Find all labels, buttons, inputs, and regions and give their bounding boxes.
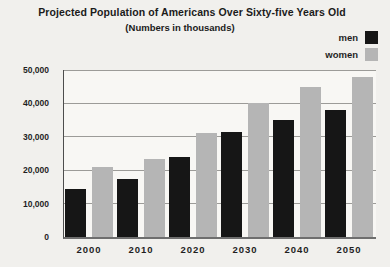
x-tick-label: 2020	[168, 244, 218, 255]
x-tick-label: 2050	[324, 244, 374, 255]
legend-item-women: women	[325, 48, 378, 61]
y-tick-label: 0	[1, 232, 49, 242]
legend-item-men: men	[325, 31, 378, 44]
legend-label-women: women	[325, 49, 358, 60]
bar-men-2040	[273, 120, 294, 237]
y-tick-label: 20,000	[1, 165, 49, 175]
bar-men-2000	[65, 189, 86, 237]
legend-swatch-men	[365, 31, 378, 44]
x-tick-label: 2000	[64, 244, 114, 255]
bar-women-2050	[352, 77, 373, 237]
gridline	[64, 103, 376, 104]
bar-women-2040	[300, 87, 321, 237]
x-tick-label: 2030	[220, 244, 270, 255]
y-tick-label: 50,000	[1, 65, 49, 75]
x-tick-label: 2010	[116, 244, 166, 255]
bar-women-2010	[144, 159, 165, 237]
population-bar-chart: Projected Population of Americans Over S…	[0, 0, 390, 267]
gridline	[64, 70, 376, 71]
chart-title: Projected Population of Americans Over S…	[0, 6, 384, 18]
bar-men-2050	[325, 110, 346, 237]
plot-area: 010,00020,00030,00040,00050,000200020102…	[63, 70, 376, 239]
bar-women-2020	[196, 133, 217, 237]
y-tick-label: 10,000	[1, 199, 49, 209]
bar-men-2030	[221, 132, 242, 237]
bar-women-2030	[248, 103, 269, 237]
x-tick-label: 2040	[272, 244, 322, 255]
bar-women-2000	[92, 167, 113, 237]
bar-men-2010	[117, 179, 138, 237]
legend-label-men: men	[338, 32, 358, 43]
legend-swatch-women	[365, 48, 378, 61]
y-tick-label: 30,000	[1, 132, 49, 142]
legend: men women	[325, 31, 378, 65]
bar-men-2020	[169, 157, 190, 237]
y-tick-label: 40,000	[1, 98, 49, 108]
chart-subtitle: (Numbers in thousands)	[0, 22, 360, 33]
